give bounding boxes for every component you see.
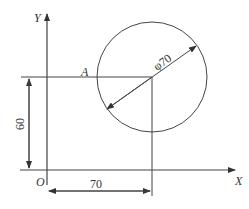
- dimension-60-label: 60: [13, 118, 27, 130]
- point-a-label: A: [80, 65, 89, 79]
- origin-label: O: [36, 175, 45, 189]
- dimension-70-label: 70: [90, 177, 102, 191]
- coordinate-diagram: Y X O A φ70 60 70: [0, 0, 249, 209]
- diagram-canvas: Y X O A φ70 60 70: [0, 0, 249, 209]
- y-axis-label: Y: [34, 11, 42, 25]
- diameter-leader-arrow-lower: [107, 77, 152, 109]
- diameter-label: φ70: [151, 51, 175, 73]
- x-axis-label: X: [234, 174, 243, 188]
